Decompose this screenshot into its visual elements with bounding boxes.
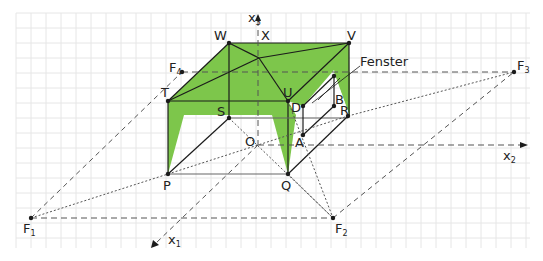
x2-arrow-icon — [520, 142, 528, 148]
label-F3: F3 — [517, 58, 530, 75]
label-V: V — [347, 28, 356, 43]
label-R: R — [340, 103, 349, 118]
label-U: U — [283, 85, 293, 100]
label-F4: F4 — [169, 60, 182, 77]
label-T: T — [160, 85, 169, 100]
label-F1: F1 — [23, 221, 36, 238]
label-X: X — [261, 28, 270, 43]
label-D: D — [291, 100, 301, 115]
label-S: S — [217, 104, 225, 119]
diagram-canvas: W X V T S U D B R A O P Q Fenster x3 x2 … — [0, 0, 543, 261]
label-Q: Q — [281, 178, 291, 193]
label-P: P — [163, 178, 171, 193]
label-W: W — [214, 28, 227, 43]
label-fenster: Fenster — [360, 54, 409, 69]
axis-x1-label: x1 — [168, 232, 181, 249]
axis-x2-label: x2 — [503, 148, 516, 165]
pavilion-fill — [168, 43, 350, 174]
perspective-diagram: W X V T S U D B R A O P Q Fenster x3 x2 … — [0, 0, 543, 261]
label-A: A — [295, 135, 304, 150]
label-O: O — [245, 134, 255, 149]
